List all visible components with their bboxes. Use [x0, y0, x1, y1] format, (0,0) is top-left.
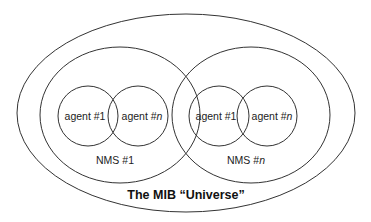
nms-n-agent-n-label: agent #n — [252, 110, 293, 122]
nms-1-group: agent #1 agent #n NMS #1 — [40, 47, 200, 183]
nms-1-agent-n-label: agent #n — [122, 110, 163, 122]
nms-n-label: NMS #n — [227, 154, 265, 166]
mib-universe-title: The MIB “Universe” — [127, 188, 244, 202]
nms-n-group: agent #1 agent #n NMS #n — [172, 47, 330, 183]
nms-1-agent-1-label: agent #1 — [65, 110, 106, 122]
mib-universe-diagram: agent #1 agent #n NMS #1 agent #1 agent … — [0, 0, 371, 222]
nms-n-agent-1-label: agent #1 — [196, 110, 237, 122]
nms-1-label: NMS #1 — [96, 154, 134, 166]
